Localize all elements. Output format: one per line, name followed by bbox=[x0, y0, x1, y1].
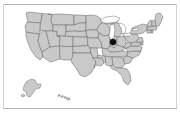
alaska-inset[interactable] bbox=[21, 79, 41, 97]
state-florida[interactable] bbox=[110, 65, 131, 85]
state-maryland[interactable] bbox=[131, 42, 141, 46]
state-alaska[interactable] bbox=[23, 79, 41, 97]
state-vermont[interactable] bbox=[147, 20, 152, 27]
state-rhode-island[interactable] bbox=[151, 30, 153, 33]
state-iowa[interactable] bbox=[86, 30, 99, 38]
lake-superior bbox=[100, 16, 120, 23]
hawaii-kauai bbox=[58, 95, 60, 97]
state-delaware[interactable] bbox=[141, 41, 143, 45]
united-states-map-svg[interactable] bbox=[0, 0, 180, 114]
state-oklahoma[interactable] bbox=[73, 46, 91, 54]
state-nebraska[interactable] bbox=[65, 31, 87, 37]
hawaii-big-island bbox=[67, 98, 71, 100]
us-map-container[interactable] bbox=[0, 0, 180, 114]
hawaii-oahu bbox=[61, 96, 63, 98]
hawaii-maui bbox=[64, 97, 66, 99]
state-montana[interactable] bbox=[48, 14, 74, 25]
location-marker[interactable] bbox=[110, 39, 116, 45]
state-idaho[interactable] bbox=[40, 14, 53, 32]
state-new-mexico[interactable] bbox=[60, 46, 74, 60]
state-washington[interactable] bbox=[26, 12, 42, 23]
hawaii-inset[interactable] bbox=[58, 95, 70, 101]
state-kansas[interactable] bbox=[73, 37, 88, 47]
state-maine[interactable] bbox=[155, 13, 163, 26]
alaska-aleutians bbox=[21, 94, 25, 97]
figure-frame bbox=[0, 0, 180, 114]
state-connecticut[interactable] bbox=[147, 30, 151, 33]
